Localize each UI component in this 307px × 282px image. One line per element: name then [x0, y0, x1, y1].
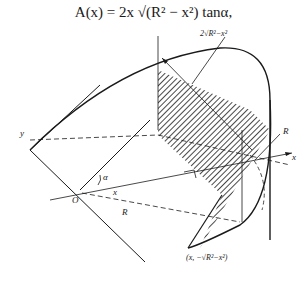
angle-label: α	[103, 172, 108, 182]
x-segment-label: x	[112, 187, 117, 197]
radius-label-right: R	[282, 126, 289, 136]
x-axis-label: x	[291, 152, 296, 162]
top-dimension-label: 2√R²−x²	[200, 29, 228, 38]
wedge-diagram: 2√R²−x² y x O α x R R (x, −√R²−x²)	[0, 0, 307, 282]
origin-label: O	[72, 195, 79, 205]
dimension-leader-line	[192, 37, 225, 84]
point-label: (x, −√R²−x²)	[186, 253, 228, 262]
y-axis-label: y	[19, 128, 24, 138]
radius-label-bottom: R	[121, 207, 128, 217]
